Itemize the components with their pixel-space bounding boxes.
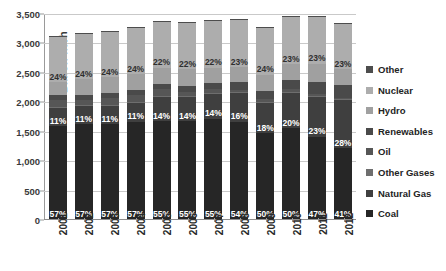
bar-segment-hydro[interactable]	[308, 64, 326, 83]
bar-segment-coal[interactable]: 57%	[49, 126, 67, 219]
bar-segment-other-gases[interactable]	[230, 92, 248, 93]
bar-segment-nuclear[interactable]: 22%	[178, 23, 196, 69]
bar-segment-renewables[interactable]	[101, 93, 119, 98]
bar-column[interactable]: 41%28%23%	[334, 14, 352, 219]
bar-segment-nuclear[interactable]: 22%	[153, 22, 171, 68]
legend-item-coal[interactable]: Coal	[366, 208, 446, 219]
stacked-bar[interactable]: 55%14%22%	[204, 20, 222, 219]
bar-segment-other[interactable]	[308, 16, 326, 17]
bar-segment-natural-gas[interactable]: 11%	[127, 103, 145, 122]
bar-segment-hydro[interactable]	[153, 68, 171, 84]
legend-item-oil[interactable]: Oil	[366, 146, 446, 157]
bar-column[interactable]: 55%14%22%	[153, 14, 171, 219]
stacked-bar[interactable]: 57%11%24%	[75, 33, 93, 219]
bar-segment-oil[interactable]	[282, 89, 300, 91]
bar-segment-coal[interactable]: 55%	[153, 121, 171, 219]
bar-segment-oil[interactable]	[178, 92, 196, 96]
bar-column[interactable]: 47%23%23%	[308, 14, 326, 219]
bar-segment-coal[interactable]: 54%	[230, 122, 248, 219]
stacked-bar[interactable]: 54%16%23%	[230, 19, 248, 219]
bar-segment-hydro[interactable]	[101, 77, 119, 93]
bar-segment-renewables[interactable]	[204, 83, 222, 89]
bar-segment-natural-gas[interactable]: 23%	[308, 96, 326, 136]
legend-item-renewables[interactable]: Renewables	[366, 126, 446, 137]
bar-segment-natural-gas[interactable]: 28%	[334, 100, 352, 148]
bar-segment-oil[interactable]	[256, 99, 274, 101]
bar-segment-coal[interactable]: 57%	[75, 124, 93, 219]
bar-segment-other-gases[interactable]	[308, 96, 326, 97]
bar-segment-oil[interactable]	[75, 100, 93, 106]
bar-segment-other[interactable]	[178, 22, 196, 23]
bar-segment-other[interactable]	[230, 19, 248, 20]
stacked-bar[interactable]: 55%14%22%	[178, 22, 196, 219]
legend-item-other[interactable]: Other	[366, 64, 446, 75]
bar-segment-hydro[interactable]	[75, 79, 93, 95]
stacked-bar[interactable]: 55%14%22%	[153, 21, 171, 219]
bar-segment-hydro[interactable]	[256, 75, 274, 91]
bar-segment-coal[interactable]: 50%	[282, 128, 300, 219]
bar-segment-natural-gas[interactable]: 14%	[153, 97, 171, 122]
bar-segment-renewables[interactable]	[334, 85, 352, 98]
bar-segment-nuclear[interactable]: 24%	[101, 32, 119, 77]
bar-segment-renewables[interactable]	[282, 80, 300, 90]
bar-segment-natural-gas[interactable]: 14%	[178, 96, 196, 121]
stacked-bar[interactable]: 47%23%23%	[308, 16, 326, 219]
bar-segment-coal[interactable]: 50%	[256, 133, 274, 219]
bar-segment-renewables[interactable]	[256, 91, 274, 99]
bar-column[interactable]: 50%20%23%	[282, 14, 300, 219]
bar-segment-natural-gas[interactable]: 16%	[230, 93, 248, 122]
bar-segment-coal[interactable]: 55%	[204, 119, 222, 219]
bar-segment-other-gases[interactable]	[282, 92, 300, 93]
bar-segment-nuclear[interactable]: 23%	[334, 24, 352, 69]
stacked-bar[interactable]: 57%11%24%	[127, 27, 145, 219]
legend-item-natural-gas[interactable]: Natural Gas	[366, 188, 446, 199]
bar-segment-hydro[interactable]	[334, 69, 352, 85]
bar-segment-oil[interactable]	[230, 90, 248, 93]
bar-segment-other[interactable]	[75, 33, 93, 34]
bar-segment-other-gases[interactable]	[75, 105, 93, 106]
legend-item-nuclear[interactable]: Nuclear	[366, 85, 446, 96]
legend-item-other-gases[interactable]: Other Gases	[366, 167, 446, 178]
bar-segment-hydro[interactable]	[49, 82, 67, 95]
bar-segment-hydro[interactable]	[127, 74, 145, 90]
bar-segment-other-gases[interactable]	[127, 102, 145, 103]
bar-segment-coal[interactable]: 55%	[178, 121, 196, 219]
stacked-bar[interactable]: 50%20%23%	[282, 16, 300, 219]
bar-segment-oil[interactable]	[49, 100, 67, 107]
bar-segment-nuclear[interactable]: 24%	[75, 33, 93, 79]
bar-segment-coal[interactable]: 47%	[308, 137, 326, 219]
bar-segment-other-gases[interactable]	[178, 96, 196, 97]
bar-segment-coal[interactable]: 41%	[334, 148, 352, 219]
bar-segment-renewables[interactable]	[75, 95, 93, 100]
bar-segment-other[interactable]	[334, 23, 352, 24]
bar-segment-other-gases[interactable]	[256, 102, 274, 103]
bar-segment-nuclear[interactable]: 24%	[256, 28, 274, 75]
bar-segment-natural-gas[interactable]: 11%	[49, 108, 67, 126]
bar-segment-other[interactable]	[153, 21, 171, 22]
bar-segment-oil[interactable]	[308, 94, 326, 96]
bar-segment-nuclear[interactable]: 24%	[49, 37, 67, 82]
bar-segment-natural-gas[interactable]: 20%	[282, 92, 300, 128]
bar-segment-oil[interactable]	[204, 89, 222, 93]
bar-segment-other[interactable]	[282, 16, 300, 17]
bar-segment-renewables[interactable]	[127, 90, 145, 95]
bar-segment-coal[interactable]: 57%	[127, 122, 145, 219]
bar-segment-hydro[interactable]	[204, 68, 222, 83]
bar-column[interactable]: 57%11%24%	[75, 14, 93, 219]
bar-segment-other-gases[interactable]	[204, 93, 222, 94]
bar-segment-renewables[interactable]	[308, 82, 326, 93]
bar-column[interactable]: 57%11%24%	[49, 14, 67, 219]
stacked-bar[interactable]: 41%28%23%	[334, 23, 352, 219]
bar-segment-nuclear[interactable]: 23%	[308, 17, 326, 63]
bar-segment-other[interactable]	[204, 20, 222, 21]
legend-item-hydro[interactable]: Hydro	[366, 105, 446, 116]
bar-segment-other[interactable]	[101, 31, 119, 32]
bar-segment-natural-gas[interactable]: 11%	[75, 106, 93, 124]
bar-segment-other-gases[interactable]	[334, 99, 352, 100]
bar-column[interactable]: 55%14%22%	[178, 14, 196, 219]
bar-segment-renewables[interactable]	[49, 95, 67, 100]
bar-segment-hydro[interactable]	[178, 69, 196, 86]
stacked-bar[interactable]: 50%18%24%	[256, 27, 274, 219]
bar-segment-oil[interactable]	[153, 89, 171, 96]
bar-segment-hydro[interactable]	[230, 67, 248, 82]
